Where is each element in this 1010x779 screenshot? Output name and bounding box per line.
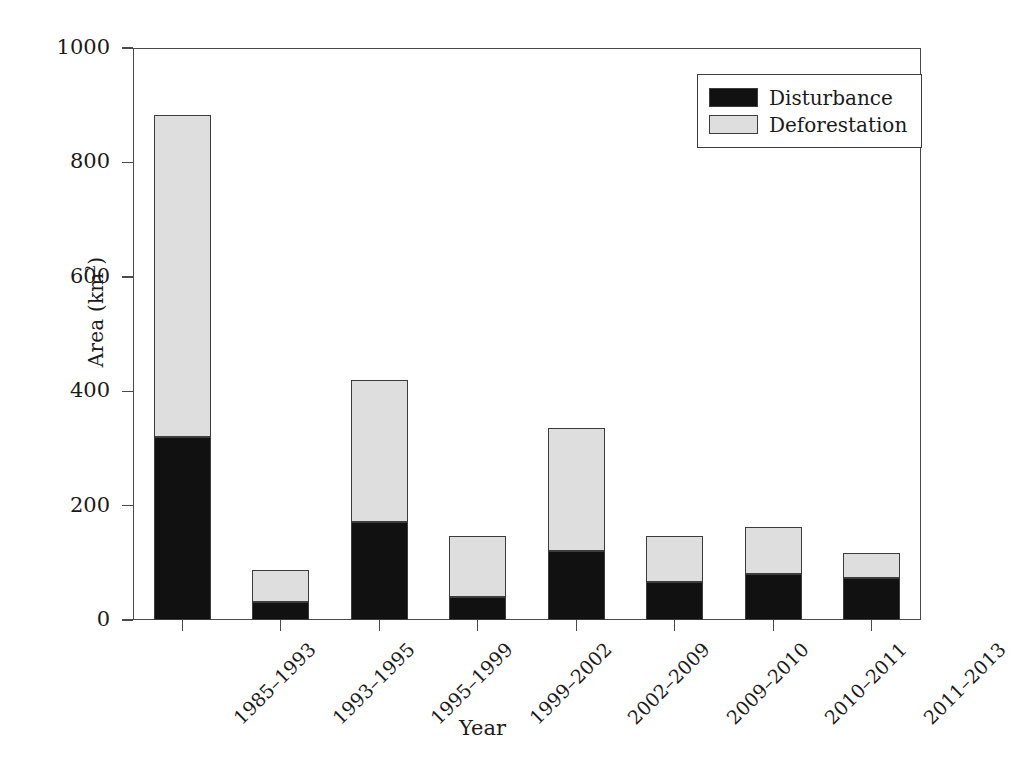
bar-segment-deforestation xyxy=(154,115,211,437)
legend-item: Deforestation xyxy=(709,111,907,138)
x-axis-tick-mark xyxy=(477,620,478,631)
bar-stack xyxy=(449,536,506,620)
bar-segment-disturbance xyxy=(252,602,309,620)
bar-stack xyxy=(351,380,408,620)
x-axis-tick-mark xyxy=(773,620,774,631)
x-axis-tick-mark xyxy=(674,620,675,631)
bar-segment-deforestation xyxy=(351,380,408,522)
y-axis-tick-mark xyxy=(122,276,133,277)
bar-segment-disturbance xyxy=(351,522,408,620)
legend-swatch-icon xyxy=(709,115,758,134)
y-axis-tick-mark xyxy=(122,505,133,506)
y-axis-tick-label: 1000 xyxy=(57,34,110,60)
bar-segment-deforestation xyxy=(843,553,900,579)
legend-item-label: Disturbance xyxy=(769,87,893,109)
bar-stack xyxy=(745,527,802,620)
bar-segment-disturbance xyxy=(646,582,703,620)
x-axis-tick-mark xyxy=(280,620,281,631)
legend-item-label: Deforestation xyxy=(769,114,907,136)
bar-segment-disturbance xyxy=(843,578,900,620)
x-axis-tick-mark xyxy=(576,620,577,631)
bar-segment-disturbance xyxy=(548,551,605,620)
y-axis-tick-label: 0 xyxy=(97,606,110,632)
x-axis-title: Year xyxy=(0,716,965,740)
bar-stack xyxy=(843,553,900,620)
x-axis-tick-mark xyxy=(871,620,872,631)
chart-legend: DisturbanceDeforestation xyxy=(697,74,922,148)
bar-segment-deforestation xyxy=(646,536,703,582)
bar-stack xyxy=(252,570,309,620)
x-axis-tick-mark xyxy=(182,620,183,631)
bar-segment-disturbance xyxy=(449,597,506,620)
y-axis-tick-label: 400 xyxy=(70,377,110,403)
y-axis-tick-label: 600 xyxy=(70,263,110,289)
y-axis-tick-mark xyxy=(122,47,133,48)
legend-swatch-icon xyxy=(709,88,758,107)
y-axis-tick-mark xyxy=(122,391,133,392)
y-axis-tick-mark xyxy=(122,619,133,620)
bar-segment-disturbance xyxy=(154,437,211,620)
bar-segment-deforestation xyxy=(252,570,309,603)
x-axis-tick-mark xyxy=(379,620,380,631)
y-axis-tick-label: 200 xyxy=(70,492,110,518)
legend-item: Disturbance xyxy=(709,84,907,111)
bar-stack xyxy=(646,536,703,620)
bar-stack xyxy=(154,115,211,620)
bar-segment-disturbance xyxy=(745,574,802,620)
bar-segment-deforestation xyxy=(449,536,506,597)
y-axis-tick-label: 800 xyxy=(70,148,110,174)
bar-stack xyxy=(548,428,605,620)
y-axis-tick-mark xyxy=(122,162,133,163)
bar-segment-deforestation xyxy=(548,428,605,551)
bar-segment-deforestation xyxy=(745,527,802,574)
